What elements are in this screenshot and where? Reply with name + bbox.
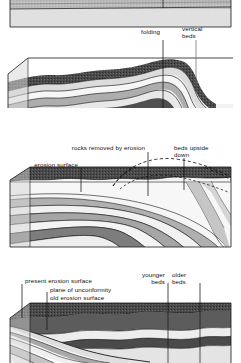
label-rocks-removed-by-erosion: rocks removed by erosion: [72, 144, 146, 151]
label-plane-of-unconformity: plane of unconformity: [50, 286, 112, 293]
geology-block-diagram-figure: folding vertical beds: [0, 0, 241, 363]
label-older-beds-line1: older: [172, 271, 186, 278]
label-beds-upside-line1: beds upside: [174, 144, 209, 151]
label-old-erosion-surface: old erosion surface: [50, 294, 105, 301]
label-younger-beds-line1: younger: [142, 271, 165, 278]
label-vertical-beds-line2: beds: [182, 32, 196, 39]
label-younger-beds-line2: beds: [151, 278, 165, 285]
label-folding: folding: [141, 28, 160, 35]
label-present-erosion-surface: present erosion surface: [25, 277, 92, 284]
label-erosion-surface: erosion surface: [34, 161, 78, 168]
label-vertical-beds-line1: vertical: [182, 25, 202, 32]
panel-1-flat-lying-beds-block: [10, 0, 231, 27]
label-older-beds-line2: beds: [172, 278, 186, 285]
label-beds-upside-line2: down: [174, 151, 190, 158]
